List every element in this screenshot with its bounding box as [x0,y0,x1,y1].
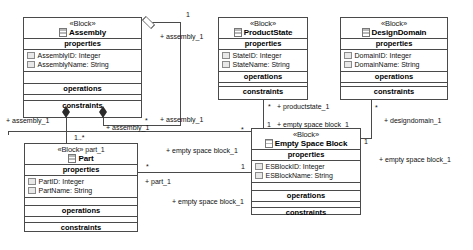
property-text: StateID: Integer [233,51,282,60]
block-icon [362,28,370,37]
list-item: StateID: Integer [222,51,307,60]
block-assembly[interactable]: «Block» Assembly properties AssemblyID: … [23,17,142,118]
property-icon [344,52,352,59]
block-esb-name: Empty Space Block [275,139,348,148]
block-designdomain-constraints-label: constraints [341,86,447,97]
connector-assembly-right-h [152,22,181,23]
role-label-esb-right: + empty space block_1 [379,156,451,164]
block-esb-properties-pad [252,182,360,190]
list-item: ESBlockName: String [255,171,360,180]
block-esb-constraints-label: constraints [252,207,360,218]
list-item: AssemblyID: Integer [27,51,141,60]
connector-part-esb-h [138,172,251,173]
block-part-constraints-label: constraints [25,222,137,233]
list-item: DomainName: String [344,60,447,69]
block-part[interactable]: «Block» part_1 Part properties PartID: I… [24,143,138,232]
block-assembly-properties-list: AssemblyID: Integer AssemblyName: String [24,49,141,71]
block-designdomain[interactable]: «Block» DesignDomain properties DomainID… [340,17,448,100]
multiplicity-designdomain-star: * [375,104,378,112]
block-empty-space-block[interactable]: «Block» Empty Space Block properties ESB… [251,128,361,215]
role-label-designdomain: + designdomain_1 [384,117,441,125]
property-text: ESBlockName: String [266,171,333,180]
property-icon [28,178,36,185]
property-text: AssemblyID: Integer [38,51,101,60]
multiplicity-part-one-star: 1..* [74,134,85,142]
block-designdomain-properties-label: properties [341,38,447,49]
block-assembly-constraints-body [24,111,141,116]
property-icon [28,187,36,194]
block-part-title-row: Part [27,154,135,164]
block-productstate-name: ProductState [244,28,293,37]
list-item: AssemblyName: String [27,60,141,69]
block-part-header: «Block» part_1 Part [25,144,137,164]
property-text: StateName: String [233,60,290,69]
multiplicity-esb-star-left: * [241,126,244,134]
block-part-name: Part [78,154,93,163]
property-icon [255,163,263,170]
property-icon [344,61,352,68]
block-assembly-properties-label: properties [24,38,141,49]
property-text: AssemblyName: String [38,60,109,69]
role-label-assembly-right-upper: + assembly_1 [160,33,203,41]
multiplicity-esb-one-right: 1 [364,138,368,146]
block-assembly-header: «Block» Assembly [24,18,141,38]
connector-designdomain-v [371,100,372,138]
multiplicity-esb-one-mid: 1 [241,163,245,171]
block-part-stereotype-text: «Block» [57,145,83,154]
block-icon [59,28,67,37]
block-designdomain-title-row: DesignDomain [343,28,445,38]
block-esb-header: «Block» Empty Space Block [252,129,360,149]
property-text: PartName: String [39,186,93,195]
block-part-name-suffix: part_1 [85,146,104,153]
block-esb-properties-list: ESBlockID: Integer ESBlockName: String [252,160,360,182]
block-designdomain-stereotype: «Block» [343,19,445,28]
block-designdomain-operations-label: operations [341,71,447,82]
block-assembly-properties-pad [24,71,141,83]
block-icon [234,28,242,37]
block-designdomain-name: DesignDomain [372,28,427,37]
block-productstate-constraints-body [219,97,307,100]
composition-diamond-assembly-part [62,112,70,118]
block-assembly-stereotype: «Block» [26,19,139,28]
list-item: StateName: String [222,60,307,69]
property-icon [222,61,230,68]
block-esb-title-row: Empty Space Block [254,139,358,149]
aggregation-diamond-assembly [142,16,155,29]
property-icon [222,52,230,59]
block-designdomain-header: «Block» DesignDomain [341,18,447,38]
property-text: PartID: Integer [39,177,85,186]
property-icon [27,52,35,59]
block-productstate[interactable]: «Block» ProductState properties StateID:… [218,17,308,100]
block-esb-properties-label: properties [252,149,360,160]
property-icon [255,172,263,179]
block-assembly-operations-label: operations [24,83,141,94]
block-esb-constraints-body [252,218,360,223]
block-productstate-constraints-label: constraints [219,86,307,97]
list-item: ESBlockID: Integer [255,162,360,171]
multiplicity-part-star: * [146,163,149,171]
connector-spine-left-tick [8,131,9,135]
list-item: DomainID: Integer [344,51,447,60]
list-item: PartID: Integer [28,177,137,186]
block-assembly-constraints-label: constraints [24,100,141,111]
block-productstate-properties-list: StateID: Integer StateName: String [219,49,307,71]
block-productstate-header: «Block» ProductState [219,18,307,38]
block-esb-stereotype: «Block» [254,130,358,139]
role-label-assembly-mid: + assembly_1 [106,124,149,132]
role-label-productstate: + productstate_1 [277,103,329,111]
block-part-stereotype: «Block» part_1 [27,145,135,154]
property-text: DomainName: String [355,60,420,69]
block-icon [265,139,273,148]
role-label-assembly-left: + assembly_1 [6,117,49,125]
block-part-properties-pad [25,197,137,205]
composition-diamond-assembly-second [99,112,107,118]
multiplicity-productstate-star: * [268,103,271,111]
uml-diagram-canvas: «Block» Assembly properties AssemblyID: … [0,0,473,250]
block-productstate-title-row: ProductState [221,28,305,38]
block-part-constraints-body [25,233,137,238]
list-item: PartName: String [28,186,137,195]
property-icon [27,61,35,68]
block-part-operations-label: operations [25,205,137,216]
connector-productstate-esb-v [263,100,264,129]
role-label-part: + part_1 [145,178,171,186]
